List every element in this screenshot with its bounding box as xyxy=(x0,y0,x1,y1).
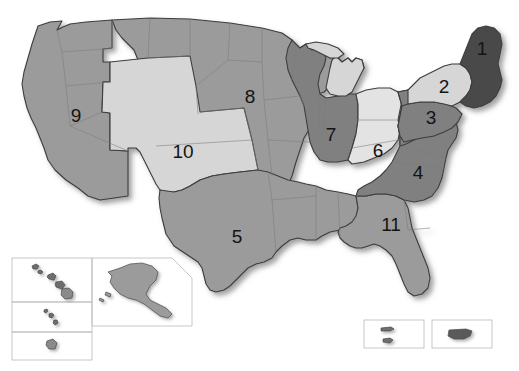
inset-frame-hawaii-top xyxy=(12,258,92,302)
region-shape-5[interactable] xyxy=(159,170,358,292)
michigan-lower-peninsula xyxy=(326,56,364,96)
puerto-rico-landmass xyxy=(448,329,472,339)
region-label-8: 8 xyxy=(245,86,256,107)
us-regions-map: 1 2 3 4 5 6 7 8 9 10 11 xyxy=(0,0,519,371)
region-label-4: 4 xyxy=(413,162,424,183)
region-label-1: 1 xyxy=(477,38,488,59)
map-canvas: 1 2 3 4 5 6 7 8 9 10 11 xyxy=(0,0,519,371)
inset-frame-virgin-islands xyxy=(364,320,424,348)
region-label-7: 7 xyxy=(326,124,337,145)
region-label-3: 3 xyxy=(426,107,437,128)
inset-virgin-islands[interactable] xyxy=(364,320,424,348)
region-label-5: 5 xyxy=(232,226,243,247)
region-label-9: 9 xyxy=(71,105,82,126)
region-label-11: 11 xyxy=(381,214,401,235)
virgin-islands-landmass xyxy=(381,327,394,343)
region-label-2: 2 xyxy=(439,76,450,97)
figure-caption xyxy=(0,362,519,371)
region-label-6: 6 xyxy=(373,140,384,161)
mainland-group xyxy=(22,18,502,296)
hawaii-islands xyxy=(32,264,73,349)
inset-hawaii[interactable] xyxy=(12,258,92,360)
inset-puerto-rico[interactable] xyxy=(432,320,492,348)
alaska-landmass xyxy=(99,263,172,318)
inset-alaska[interactable] xyxy=(92,258,192,326)
region-label-10: 10 xyxy=(172,141,193,162)
